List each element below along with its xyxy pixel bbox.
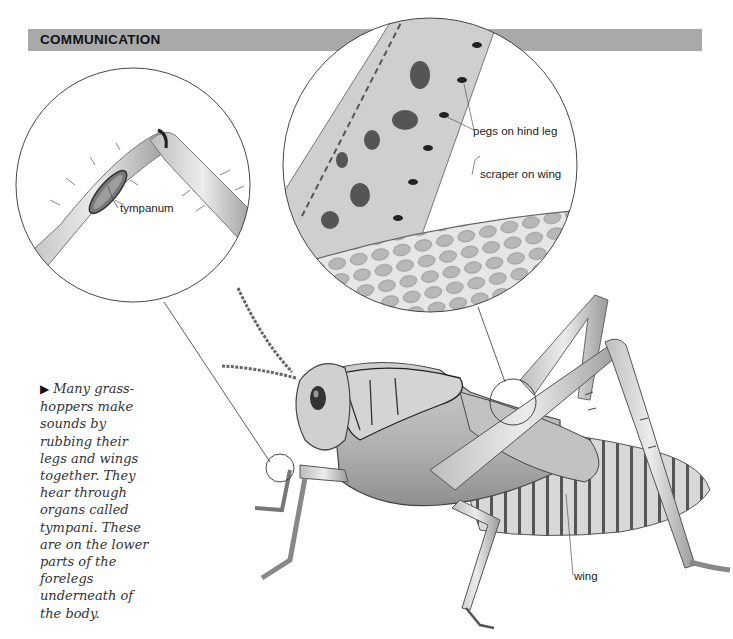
label-tympanum: tympanum	[120, 202, 174, 214]
label-wing: wing	[574, 570, 598, 582]
grasshopper-body	[222, 288, 730, 628]
section-title: COMMUNICATION	[40, 31, 161, 49]
tympanum-leader-line	[164, 302, 270, 462]
triangle-right-icon: ▶	[40, 382, 49, 396]
scraper-leader-line	[478, 307, 505, 382]
caption-body: Many grass-hoppers make sounds by rubbin…	[40, 381, 149, 621]
tympanum-locator-circle	[266, 454, 294, 482]
caption-text-block: ▶Many grass-hoppers make sounds by rubbi…	[40, 380, 152, 622]
label-pegs-on-hind-leg: pegs on hind leg	[473, 125, 557, 137]
label-scraper-on-wing: scraper on wing	[480, 168, 561, 180]
tympanum-inset	[16, 68, 255, 302]
